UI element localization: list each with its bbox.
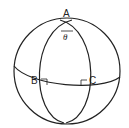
sphere-diagram: A B C θ <box>0 0 129 128</box>
label-c: C <box>89 75 96 86</box>
label-theta: θ <box>63 32 68 42</box>
right-angle-mark-c <box>81 80 87 85</box>
equator <box>14 66 120 85</box>
label-a: A <box>63 8 70 19</box>
label-b: B <box>31 75 38 86</box>
